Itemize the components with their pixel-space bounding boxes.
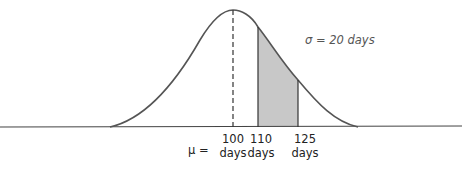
tick-125-unit: days [287,146,323,160]
tick-125: 125 days [287,132,323,160]
shaded-region [258,27,298,127]
tick-110-value: 110 [243,132,279,146]
tick-125-value: 125 [287,132,323,146]
x-axis [0,126,462,127]
sigma-label: σ = 20 days [305,33,375,47]
tick-110-unit: days [243,146,279,160]
bell-curve [110,10,358,127]
tick-110: 110 days [243,132,279,160]
mean-prefix: μ = [188,143,209,157]
